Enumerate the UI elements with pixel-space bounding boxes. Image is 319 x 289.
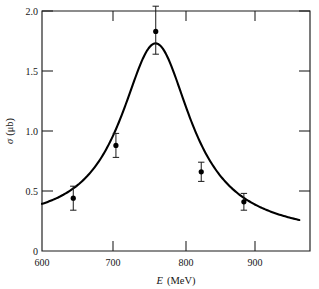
y-tick-label: 0.5	[26, 186, 39, 197]
y-tick-labels: 2.0 1.5 1.0 0.5 0	[26, 6, 39, 257]
data-point	[113, 133, 119, 157]
data-point-group	[70, 6, 247, 210]
svg-text:σ(μb): σ(μb)	[4, 117, 16, 144]
svg-text:E(MeV): E(MeV)	[156, 275, 196, 287]
x-axis-ticks	[113, 11, 255, 251]
x-tick-label: 700	[106, 257, 121, 268]
x-axis-title: E(MeV)	[156, 275, 196, 287]
y-tick-label: 1.5	[26, 66, 39, 77]
x-tick-label: 600	[35, 257, 50, 268]
data-point	[153, 6, 159, 54]
x-axis-title-symbol: E	[156, 275, 164, 286]
x-axis-title-unit: (MeV)	[167, 275, 196, 287]
y-axis-title-symbol: σ	[4, 138, 15, 144]
data-point-marker	[113, 143, 118, 148]
y-axis-title: σ(μb)	[4, 117, 16, 144]
breit-wigner-fit-curve	[42, 43, 299, 220]
x-tick-labels: 600 700 800 900	[35, 257, 263, 268]
y-tick-label: 0	[33, 246, 38, 257]
data-point-marker	[199, 169, 204, 174]
y-axis-title-unit: (μb)	[4, 117, 16, 135]
data-point-marker	[153, 29, 158, 34]
y-tick-label: 2.0	[26, 6, 39, 17]
plot-frame	[42, 11, 310, 251]
x-tick-label: 800	[179, 257, 194, 268]
x-tick-label: 900	[248, 257, 263, 268]
data-point-marker	[71, 196, 76, 201]
resonance-cross-section-chart: 2.0 1.5 1.0 0.5 0 600 700 800 900 E(MeV)…	[0, 0, 319, 289]
data-point-marker	[241, 199, 246, 204]
data-point	[198, 162, 204, 181]
y-tick-label: 1.0	[26, 126, 39, 137]
figure-panel: 2.0 1.5 1.0 0.5 0 600 700 800 900 E(MeV)…	[0, 0, 319, 289]
y-axis-ticks	[42, 11, 310, 191]
